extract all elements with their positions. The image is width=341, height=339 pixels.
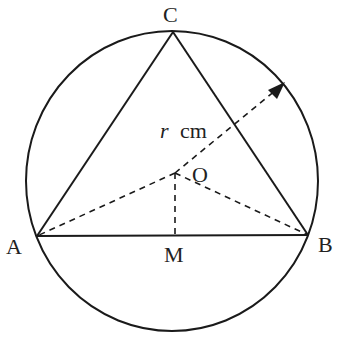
label-c: C xyxy=(163,2,178,27)
circumcircle xyxy=(26,31,318,331)
label-m: M xyxy=(164,242,184,267)
side-ab xyxy=(37,235,308,236)
label-b: B xyxy=(318,232,333,257)
label-radius-unit: cm xyxy=(180,118,207,143)
label-radius-var: r xyxy=(160,118,169,143)
geometry-diagram: C A B O M r cm xyxy=(0,0,341,339)
arrowhead-icon xyxy=(268,82,285,99)
label-o: O xyxy=(192,162,208,187)
label-a: A xyxy=(6,234,22,259)
